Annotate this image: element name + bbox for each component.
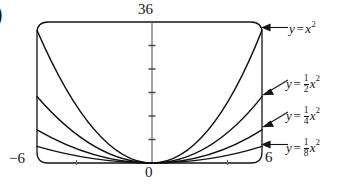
curve-label-equals: = bbox=[292, 108, 302, 123]
fraction-numerator: 1 bbox=[304, 138, 309, 148]
fraction-denominator: 8 bbox=[304, 149, 309, 159]
leader-arrow-eighth-x2 bbox=[263, 141, 289, 147]
x-max-label: 6 bbox=[265, 150, 273, 165]
y-max-label: 36 bbox=[138, 2, 153, 17]
curve-label-variable: x bbox=[310, 108, 316, 123]
label-leader-lines bbox=[263, 24, 289, 147]
fraction-numerator: 1 bbox=[304, 74, 309, 84]
curve-label-exponent: 2 bbox=[316, 105, 320, 115]
curve-label-quarter-x-squared: y=14x2 bbox=[286, 106, 320, 127]
curve-y-equals-quarter-x-squared bbox=[37, 130, 262, 163]
curve-label-equals: = bbox=[292, 76, 302, 91]
fraction-denominator: 4 bbox=[304, 117, 309, 127]
curve-y-equals-eighth-x-squared bbox=[37, 146, 262, 163]
x-min-label: −6 bbox=[9, 151, 25, 166]
curve-y-equals-half-x-squared bbox=[37, 97, 262, 163]
origin-label: 0 bbox=[145, 165, 153, 180]
curve-label-equals: = bbox=[292, 140, 302, 155]
leader-arrow-x2 bbox=[263, 24, 289, 30]
curve-label-x-squared: y=x2 bbox=[289, 21, 316, 35]
curve-label-variable: x bbox=[310, 140, 316, 155]
fraction-denominator: 2 bbox=[304, 85, 309, 95]
curve-label-y: y bbox=[286, 76, 292, 91]
curve-label-eighth-x-squared: y=18x2 bbox=[286, 138, 320, 159]
leader-arrow-half-x2 bbox=[264, 80, 288, 95]
curve-label-exponent: 2 bbox=[316, 137, 320, 147]
curve-label-half-x-squared: y=12x2 bbox=[286, 74, 320, 95]
curve-label-exponent: 2 bbox=[311, 19, 315, 29]
curve-label-y: y bbox=[286, 140, 292, 155]
curve-label-y: y bbox=[286, 108, 292, 123]
curve-label-y: y bbox=[289, 21, 295, 36]
fraction-numerator: 1 bbox=[304, 106, 309, 116]
parabola-family-figure: ) bbox=[0, 0, 348, 187]
leader-arrow-quarter-x2 bbox=[264, 112, 288, 127]
curve-y-equals-x-squared bbox=[37, 30, 262, 163]
curve-label-variable: x bbox=[310, 76, 316, 91]
curve-label-equals: = bbox=[295, 21, 305, 36]
curve-label-coefficient-fraction: 12 bbox=[304, 74, 309, 95]
curve-label-coefficient-fraction: 18 bbox=[304, 138, 309, 159]
curve-label-coefficient-fraction: 14 bbox=[304, 106, 309, 127]
curve-label-exponent: 2 bbox=[316, 73, 320, 83]
